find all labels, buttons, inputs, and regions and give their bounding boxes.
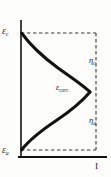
label-eps-a: εa	[2, 146, 9, 156]
label-eta-c-subscript: c	[93, 60, 95, 66]
label-eta-a: ηa	[89, 116, 96, 125]
label-eta-a-subscript: a	[93, 120, 96, 126]
label-eps-a-subscript: a	[6, 150, 9, 156]
x-axis-label: I	[95, 162, 98, 171]
evans-polarization-diagram: εc εa εcorr. ηc ηa I	[0, 0, 111, 177]
label-eps-c: εc	[2, 27, 8, 37]
label-eps-c-subscript: c	[6, 31, 9, 37]
label-eps-corr: εcorr.	[56, 84, 69, 92]
label-eta-c: ηc	[89, 56, 96, 65]
label-eps-corr-subscript: corr.	[59, 87, 68, 93]
anodic-branch-curve	[22, 92, 91, 150]
